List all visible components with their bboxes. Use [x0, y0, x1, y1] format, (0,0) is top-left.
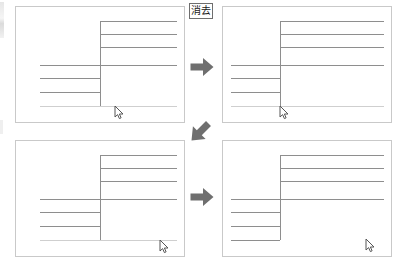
arrow-right-top-icon [189, 54, 215, 80]
vertical-line [100, 155, 101, 241]
horizontal-line [40, 240, 178, 241]
horizontal-line [100, 168, 177, 169]
panel-top-right[interactable] [222, 6, 392, 123]
horizontal-line [231, 199, 384, 200]
horizontal-line [100, 155, 177, 156]
arrow-down-left-icon [186, 118, 214, 146]
horizontal-line [231, 106, 384, 107]
horizontal-line [231, 92, 280, 93]
horizontal-line [280, 47, 384, 48]
horizontal-line [40, 106, 178, 107]
horizontal-line [280, 21, 384, 22]
horizontal-line [100, 47, 177, 48]
horizontal-line [280, 181, 384, 182]
horizontal-line [231, 78, 280, 79]
horizontal-line [231, 212, 280, 213]
mouse-cursor [159, 239, 170, 254]
horizontal-line [40, 199, 178, 200]
horizontal-line [40, 78, 100, 79]
vertical-line [280, 155, 281, 241]
panel-top-left[interactable] [15, 6, 185, 123]
horizontal-line [40, 212, 100, 213]
erase-label-box[interactable]: 消去 [189, 3, 213, 19]
drawing-canvas[interactable] [16, 141, 184, 256]
scan-artifact-left-2 [0, 120, 3, 134]
horizontal-line [231, 65, 384, 66]
drawing-canvas[interactable] [16, 7, 184, 122]
horizontal-line [280, 155, 384, 156]
vertical-line [100, 21, 101, 107]
panel-bottom-left[interactable] [15, 140, 185, 257]
horizontal-line [231, 226, 280, 227]
horizontal-line [40, 65, 178, 66]
horizontal-line [100, 21, 177, 22]
vertical-line [280, 21, 281, 107]
arrow-right-bottom-icon [189, 184, 215, 210]
sequence-diagram: 消去 [0, 0, 400, 267]
drawing-canvas[interactable] [223, 141, 391, 256]
erase-label-text: 消去 [191, 6, 211, 16]
panel-bottom-right[interactable] [222, 140, 392, 257]
mouse-cursor [365, 238, 376, 253]
horizontal-line [280, 168, 384, 169]
horizontal-line [280, 34, 384, 35]
horizontal-line [231, 240, 280, 241]
horizontal-line [40, 226, 100, 227]
horizontal-line [100, 181, 177, 182]
scan-artifact-left [0, 2, 4, 38]
drawing-canvas[interactable] [223, 7, 391, 122]
mouse-cursor [279, 105, 290, 120]
mouse-cursor [114, 105, 125, 120]
horizontal-line [100, 34, 177, 35]
horizontal-line [40, 92, 100, 93]
